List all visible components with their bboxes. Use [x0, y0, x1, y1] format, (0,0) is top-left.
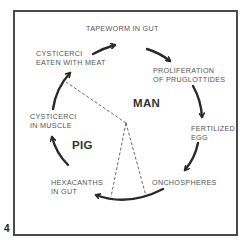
arrow-tapeworm-to-proliferation: [147, 49, 170, 61]
stage-proliferation: PROLIFERATION OF PRUGLOTTIDES: [153, 67, 225, 84]
stage-cysticerci-in-muscle: CYSTICERCI IN MUSCLE: [30, 113, 77, 130]
arrow-proliferation-to-egg: [193, 86, 202, 117]
arrow-onchospheres-to-hexacanths: [96, 189, 163, 200]
host-label-man: MAN: [133, 97, 160, 109]
arrow-muscle-to-eaten: [53, 73, 70, 109]
stage-hexacanths: HEXACANTHS IN GUT: [51, 179, 103, 196]
stage-onchospheres: ONCHOSPHERES: [152, 179, 217, 188]
stage-tapeworm-in-gut: TAPEWORM IN GUT: [86, 25, 159, 34]
arrow-egg-to-onchospheres: [185, 143, 198, 170]
stage-fertilized-egg: FERTILIZED EGG: [191, 125, 235, 142]
arrow-hexacanths-to-muscle: [52, 137, 68, 165]
stage-cysticerci-eaten: CYSTICERCI EATEN WITH MEAT: [36, 50, 106, 67]
host-label-pig: PIG: [72, 139, 93, 151]
